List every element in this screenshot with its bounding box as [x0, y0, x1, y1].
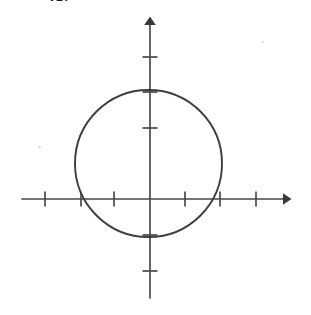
- figure-root: 41.: [0, 0, 311, 315]
- x-axis-group: [22, 192, 292, 207]
- plotted-circle: [75, 90, 222, 237]
- plotted-curve-group: [75, 90, 222, 237]
- coordinate-plane-graph: [0, 0, 311, 315]
- y-axis-arrowhead: [144, 17, 156, 26]
- x-axis-arrowhead: [283, 193, 292, 205]
- y-axis-group: [143, 17, 158, 299]
